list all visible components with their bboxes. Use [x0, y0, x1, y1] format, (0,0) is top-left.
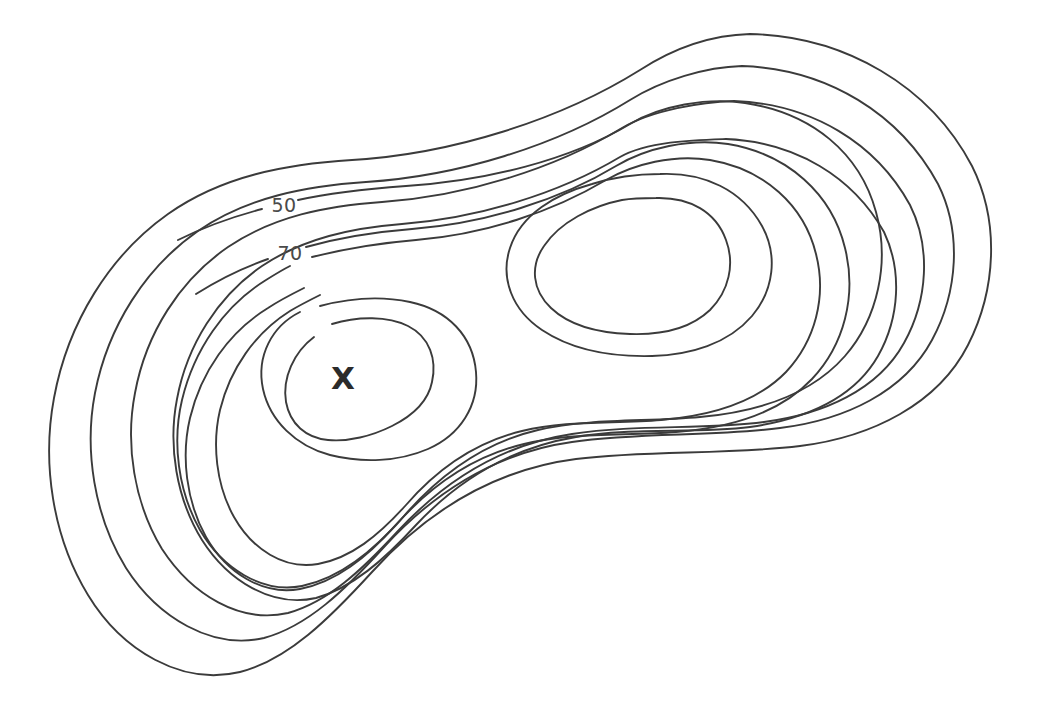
contour-label-50: 50 [271, 194, 296, 216]
contour-line-90-left-summit [285, 318, 433, 440]
contour-label-70: 70 [277, 242, 302, 264]
contour-line-90-right-summit [535, 198, 730, 334]
contour-map-svg: 50 70 X [0, 0, 1049, 711]
contour-map-canvas: 50 70 X [0, 0, 1049, 711]
contour-line-80-right-summit [507, 174, 772, 356]
contour-line-50 [177, 101, 881, 587]
spot-marker-x: X [331, 360, 355, 396]
contour-line-70 [216, 158, 820, 565]
